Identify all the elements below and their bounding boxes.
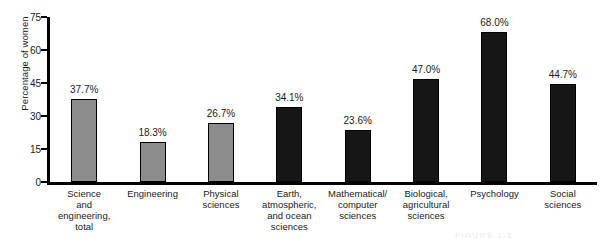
- bar-slot: 34.1%: [255, 17, 323, 182]
- bar-slot: 18.3%: [118, 17, 186, 182]
- category-label-slot: Earth, atmospheric, and ocean sciences: [255, 188, 323, 232]
- category-label: Science and engineering, total: [50, 188, 118, 232]
- bar: [140, 142, 166, 182]
- bar-slot: 37.7%: [50, 17, 118, 182]
- plot-area: 37.7%18.3%26.7%34.1%23.6%47.0%68.0%44.7%: [50, 17, 597, 182]
- bar: [345, 130, 371, 182]
- x-axis-category-labels: Science and engineering, totalEngineerin…: [50, 188, 597, 239]
- bar: [208, 123, 234, 182]
- bar-slot: 44.7%: [529, 17, 597, 182]
- category-label: Psychology: [460, 188, 528, 199]
- y-axis-tick-label: 15: [5, 144, 41, 155]
- bar: [550, 84, 576, 182]
- category-label-slot: Social sciences: [529, 188, 597, 210]
- category-label: Earth, atmospheric, and ocean sciences: [255, 188, 323, 232]
- bar-chart-figure: Percentage of women 01530456075 37.7%18.…: [0, 0, 602, 239]
- bar-slot: 68.0%: [460, 17, 528, 182]
- y-axis-tick-label: 0: [5, 177, 41, 188]
- y-axis-tick-mark: [41, 148, 47, 150]
- bar: [71, 99, 97, 182]
- y-axis-tick-label: 60: [5, 45, 41, 56]
- category-label: Biological, agricultural sciences: [392, 188, 460, 221]
- bar-value-label: 18.3%: [138, 127, 166, 138]
- bar-slot: 23.6%: [324, 17, 392, 182]
- bar-slot: 26.7%: [187, 17, 255, 182]
- y-axis-tick-label: 30: [5, 111, 41, 122]
- bar-value-label: 47.0%: [412, 64, 440, 75]
- bar: [413, 79, 439, 182]
- x-axis-line: [47, 182, 597, 185]
- category-label-slot: Biological, agricultural sciences: [392, 188, 460, 221]
- category-label-slot: Engineering: [118, 188, 186, 199]
- bar-slot: 47.0%: [392, 17, 460, 182]
- bar-value-label: 44.7%: [549, 69, 577, 80]
- y-axis-tick-mark: [41, 16, 47, 18]
- y-axis-tick-label: 75: [5, 12, 41, 23]
- y-axis-tick-label: 45: [5, 78, 41, 89]
- bar: [481, 32, 507, 182]
- figure-caption: FIGURE 1-1: [455, 231, 513, 239]
- bar-value-label: 68.0%: [480, 17, 508, 28]
- bar-value-label: 26.7%: [207, 108, 235, 119]
- y-axis-tick-mark: [41, 115, 47, 117]
- category-label: Physical sciences: [187, 188, 255, 210]
- y-axis-tick-mark: [41, 49, 47, 51]
- bar-value-label: 37.7%: [70, 84, 98, 95]
- category-label: Mathematical/ computer sciences: [324, 188, 392, 221]
- bar-value-label: 23.6%: [344, 115, 372, 126]
- category-label-slot: Physical sciences: [187, 188, 255, 210]
- bar-value-label: 34.1%: [275, 92, 303, 103]
- category-label: Social sciences: [529, 188, 597, 210]
- category-label-slot: Psychology: [460, 188, 528, 199]
- category-label-slot: Science and engineering, total: [50, 188, 118, 232]
- category-label-slot: Mathematical/ computer sciences: [324, 188, 392, 221]
- bar: [276, 107, 302, 182]
- category-label: Engineering: [118, 188, 186, 199]
- y-axis-tick-mark: [41, 82, 47, 84]
